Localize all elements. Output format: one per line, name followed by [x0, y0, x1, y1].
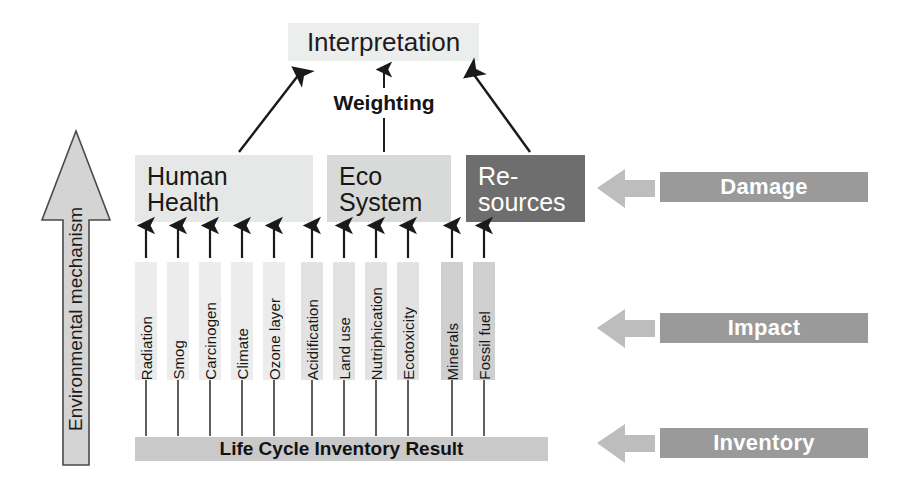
impact-bar-label: Land use [336, 315, 353, 380]
impact-bar-acidification: Acidification [301, 262, 323, 380]
impact-bar-carcinogen: Carcinogen [199, 262, 221, 380]
damage-box-human-health-line2: Health [147, 189, 219, 215]
impact-bar-climate: Climate [231, 262, 253, 380]
arrow-human-health-to-interpretation [239, 73, 300, 152]
damage-box-eco-system-line1: Eco [339, 163, 382, 189]
life-cycle-inventory-bar: Life Cycle Inventory Result [135, 437, 548, 461]
environmental-mechanism-label: Environmental mechanism [65, 207, 87, 431]
block-arrow-inventory [597, 424, 655, 463]
impact-bar-label: Fossil fuel [476, 309, 493, 380]
impact-bar-nutriphication: Nutriphication [365, 262, 387, 380]
interpretation-label: Interpretation [307, 27, 460, 58]
damage-box-resources-line1: Re- [478, 163, 518, 189]
block-arrow-impact [597, 309, 655, 348]
interpretation-box: Interpretation [288, 23, 479, 61]
impact-bar-radiation: Radiation [135, 262, 157, 380]
stage-label-impact-text: Impact [728, 315, 801, 341]
connector-overlay [0, 0, 898, 485]
impact-bar-smog: Smog [167, 262, 189, 380]
impact-bar-label: Carcinogen [202, 300, 219, 380]
stage-label-damage-text: Damage [720, 174, 807, 200]
impact-bar-label: Radiation [138, 314, 155, 380]
arrow-resources-to-interpretation [472, 72, 530, 152]
impact-bar-label: Ecotoxicity [400, 305, 417, 380]
stage-label-inventory: Inventory [660, 428, 868, 458]
weighting-text: Weighting [333, 91, 434, 115]
block-arrow-damage [597, 169, 655, 208]
impact-bar-label: Acidification [304, 297, 321, 380]
impact-bar-label: Smog [170, 338, 187, 380]
impact-bar-label: Climate [234, 326, 251, 380]
damage-box-eco-system: Eco System [327, 155, 451, 222]
environmental-mechanism-label-wrap: Environmental mechanism [40, 128, 112, 468]
damage-box-resources-line2: sources [478, 189, 566, 215]
impact-bar-fossil-fuel: Fossil fuel [473, 262, 495, 380]
stage-label-inventory-text: Inventory [713, 430, 815, 456]
weighting-label: Weighting [322, 90, 446, 116]
damage-box-eco-system-line2: System [339, 189, 422, 215]
life-cycle-inventory-label: Life Cycle Inventory Result [220, 438, 464, 460]
damage-box-human-health-line1: Human [147, 163, 228, 189]
damage-box-human-health: Human Health [135, 155, 313, 222]
damage-box-resources: Re- sources [466, 155, 585, 222]
impact-bar-ozone-layer: Ozone layer [263, 262, 285, 380]
stage-label-damage: Damage [660, 172, 868, 202]
impact-bar-label: Nutriphication [368, 285, 385, 380]
environmental-mechanism-arrow: Environmental mechanism [40, 128, 112, 468]
impact-bar-label: Minerals [444, 321, 461, 380]
impact-bar-minerals: Minerals [441, 262, 463, 380]
impact-bar-land-use: Land use [333, 262, 355, 380]
impact-bar-label: Ozone layer [266, 296, 283, 380]
stage-label-impact: Impact [660, 313, 868, 343]
impact-bar-ecotoxicity: Ecotoxicity [397, 262, 419, 380]
lca-diagram: Environmental mechanism Interpretation W… [0, 0, 898, 485]
